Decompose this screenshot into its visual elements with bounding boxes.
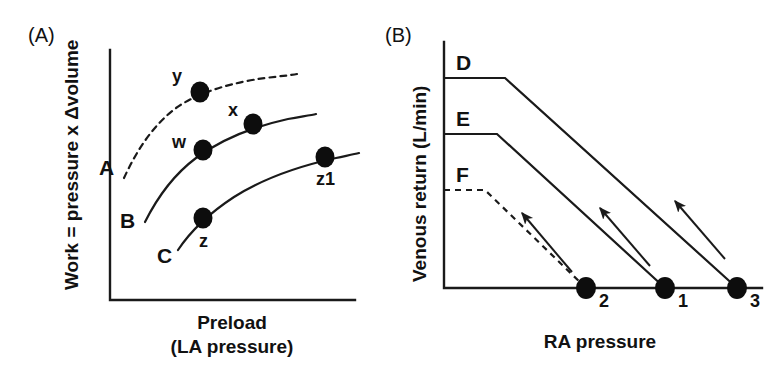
panel-b-point-label-3: 3 <box>750 291 760 311</box>
panel-b-point-label-2: 2 <box>599 291 609 311</box>
panel-a-point-label-z: z <box>199 231 208 251</box>
panel-b-curve-label-d: D <box>456 51 471 74</box>
panel-a-point-x <box>244 114 263 135</box>
panel-b-curve-d <box>444 78 737 288</box>
panel-b-curve-e <box>444 134 665 288</box>
panel-b-label: (B) <box>385 24 412 46</box>
panel-b-arrow-f <box>522 213 572 272</box>
panel-b-point-1 <box>655 277 675 299</box>
panel-a-point-z <box>194 208 213 229</box>
figure-svg: (A) Work = pressure x Δvolume A B C y <box>0 0 782 374</box>
panel-b-curve-label-e: E <box>456 107 470 130</box>
panel-a-curve-label-a: A <box>99 156 114 179</box>
panel-b-y-axis-title: Venous return (L/min) <box>409 86 430 282</box>
panel-a-y-axis-title: Work = pressure x Δvolume <box>61 40 82 290</box>
panel-a-x-axis-title-line2: (LA pressure) <box>171 336 294 357</box>
panel-a-point-label-z1: z1 <box>316 169 335 189</box>
panel-a-curve-label-c: C <box>157 244 172 267</box>
panel-b-x-axis-title: RA pressure <box>544 331 656 352</box>
panel-a-point-label-x: x <box>228 100 238 120</box>
panel-a-point-w <box>194 140 213 161</box>
panel-a: (A) Work = pressure x Δvolume A B C y <box>28 24 359 357</box>
panel-b-point-label-1: 1 <box>678 291 688 311</box>
panel-a-curve-a <box>124 74 297 178</box>
panel-a-point-z1 <box>316 147 335 168</box>
panel-b-curve-label-f: F <box>456 163 469 186</box>
panel-a-curve-b <box>145 114 316 222</box>
panel-b-arrow-e <box>600 208 650 266</box>
panel-b-point-3 <box>727 277 747 299</box>
panel-b-point-2 <box>576 277 596 299</box>
figure-container: (A) Work = pressure x Δvolume A B C y <box>0 0 782 374</box>
panel-b-arrow-d <box>675 201 725 259</box>
panel-a-curve-label-b: B <box>120 209 135 232</box>
panel-a-point-y <box>191 82 210 103</box>
panel-b-curve-f <box>444 190 586 288</box>
panel-a-label: (A) <box>28 24 55 46</box>
panel-a-x-axis-title-line1: Preload <box>197 312 267 333</box>
panel-b: (B) Venous return (L/min) D E F <box>385 24 762 352</box>
panel-a-point-label-w: w <box>171 132 187 152</box>
panel-a-point-label-y: y <box>172 66 182 86</box>
